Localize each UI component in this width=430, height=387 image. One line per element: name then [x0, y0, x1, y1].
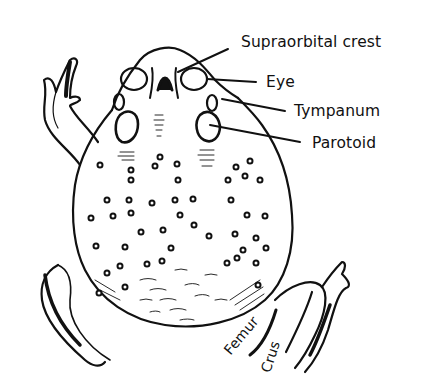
toad-anatomy-diagram: Supraorbital crest Eye Tympanum Parotoid…: [0, 0, 430, 387]
label-supraorbital-crest: Supraorbital crest: [241, 35, 381, 51]
body-outline: [73, 98, 292, 326]
left-hindlimb: [42, 265, 110, 366]
label-tympanum: Tympanum: [294, 104, 380, 120]
right-eye: [181, 68, 207, 90]
right-tympanum: [207, 95, 217, 111]
warts: [89, 155, 269, 296]
toad-illustration: [0, 0, 430, 387]
left-parotoid: [116, 112, 138, 143]
label-parotoid: Parotoid: [312, 136, 376, 152]
label-eye: Eye: [266, 75, 295, 91]
left-forelimb: [44, 58, 98, 165]
left-eye: [121, 68, 147, 90]
